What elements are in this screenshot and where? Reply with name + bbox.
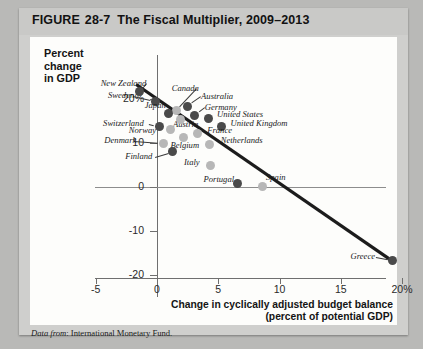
data-point: [204, 114, 213, 123]
source-text: International Monetary Fund.: [71, 328, 172, 338]
x-tick-label: 10: [260, 283, 300, 295]
y-axis-title-line1: Percent: [44, 47, 144, 60]
data-point: [164, 109, 173, 118]
chart-canvas: Percent change in GDP 20%100-10-20 -5051…: [30, 37, 397, 325]
data-point-label: Greece: [351, 251, 376, 261]
data-point: [183, 102, 192, 111]
figure-panel: FIGURE28-7The Fiscal Multiplier, 2009–20…: [19, 8, 408, 335]
data-point-label: Italy: [184, 157, 200, 167]
data-point: [206, 161, 215, 170]
data-point: [166, 125, 175, 134]
data-point: [168, 147, 177, 156]
data-point-label: Portugal: [204, 174, 235, 184]
figure-header: FIGURE28-7The Fiscal Multiplier, 2009–20…: [19, 8, 408, 35]
data-point-label: Finland: [125, 151, 152, 161]
data-point: [159, 139, 168, 148]
y-tick: [150, 187, 157, 188]
data-point-label: Sweden: [108, 90, 134, 100]
data-point-label: Netherlands: [221, 135, 263, 145]
x-tick-label: 0: [137, 283, 177, 295]
x-axis-title: Change in cyclically adjusted budget bal…: [165, 299, 393, 323]
y-tick-label: -20: [102, 268, 144, 280]
y-tick: [150, 275, 157, 276]
figure-number: 28-7: [85, 13, 110, 27]
data-point: [172, 106, 181, 115]
source-prefix: Data from: [31, 328, 66, 338]
data-point: [258, 182, 267, 191]
data-point: [388, 256, 397, 265]
data-point: [176, 115, 185, 124]
data-point: [205, 140, 214, 149]
label-leader-line: [191, 96, 201, 103]
data-point-label: Japan: [145, 100, 166, 110]
data-point-label: Spain: [266, 172, 286, 182]
y-axis-title-line2: change: [44, 60, 144, 73]
y-tick: [150, 231, 157, 232]
x-tick-label: 15: [321, 283, 361, 295]
x-tick-label: 20%: [382, 283, 422, 295]
y-tick-label: 0: [102, 180, 144, 192]
x-axis-title-line1: Change in cyclically adjusted budget bal…: [165, 299, 393, 311]
data-point-label: Norway: [129, 125, 156, 135]
y-tick-label: -10: [102, 224, 144, 236]
data-point: [155, 122, 164, 131]
x-tick-label: -5: [76, 283, 116, 295]
label-leader-line: [376, 257, 388, 260]
data-point-label: Australia: [201, 91, 233, 101]
data-point-label: New Zealand: [101, 78, 147, 88]
x-tick-label: 5: [198, 283, 238, 295]
figure-title: FIGURE28-7The Fiscal Multiplier, 2009–20…: [32, 13, 309, 27]
data-point-label: Denmark: [104, 135, 136, 145]
x-axis-title-line2: (percent of potential GDP): [165, 311, 393, 323]
figure-label: FIGURE: [32, 13, 80, 27]
y-axis-line: [157, 55, 158, 297]
data-point-label: France: [207, 125, 232, 135]
data-point-label: Canada: [172, 83, 199, 93]
figure-subtitle: The Fiscal Multiplier, 2009–2013: [117, 13, 309, 27]
data-point-label: United Kingdom: [231, 118, 288, 128]
data-point: [193, 129, 202, 138]
source-note: Data from: International Monetary Fund.: [31, 328, 172, 338]
data-point: [233, 179, 242, 188]
